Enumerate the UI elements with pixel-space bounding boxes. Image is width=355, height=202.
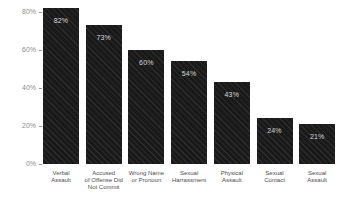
bar-value-label: 73% — [86, 25, 122, 41]
bar-value-label: 60% — [128, 50, 164, 66]
category-label: Sexual Assault — [290, 170, 344, 184]
bar: 60% — [128, 50, 164, 164]
bar-value-label: 54% — [171, 61, 207, 77]
bar-value-label: 24% — [257, 118, 293, 134]
y-axis-tick-mark — [39, 12, 42, 13]
bar: 21% — [299, 124, 335, 164]
y-axis-tick-label: 80% — [0, 8, 36, 16]
bar: 82% — [43, 8, 79, 164]
y-axis-tick-label: 0% — [0, 160, 36, 168]
bar-chart: 80%60%40%20%0% 82%73%60%54%43%24%21% Ver… — [0, 0, 355, 202]
bar-value-label: 82% — [43, 8, 79, 24]
bar: 73% — [86, 25, 122, 164]
bar-value-label: 43% — [214, 82, 250, 98]
bar: 24% — [257, 118, 293, 164]
y-axis-tick-label: 40% — [0, 84, 36, 92]
y-axis-tick-mark — [39, 50, 42, 51]
bar: 54% — [171, 61, 207, 164]
bar: 43% — [214, 82, 250, 164]
y-axis-tick-label: 20% — [0, 122, 36, 130]
y-axis-tick-label: 60% — [0, 46, 36, 54]
bar-value-label: 21% — [299, 124, 335, 140]
y-axis-tick-mark — [39, 126, 42, 127]
y-axis-tick-mark — [39, 164, 42, 165]
y-axis-tick-mark — [39, 88, 42, 89]
